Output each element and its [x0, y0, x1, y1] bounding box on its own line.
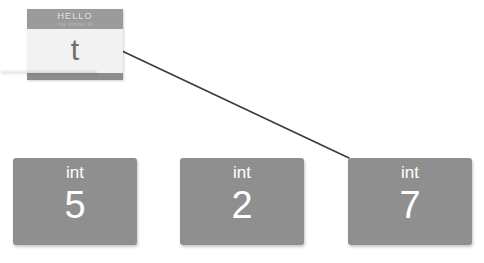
int-box-type-label: int: [401, 163, 419, 182]
name-tag-variable-name: t: [71, 35, 79, 65]
name-tag-hello-text: HELLO: [57, 11, 92, 21]
int-box-value-label: 5: [64, 184, 85, 226]
name-tag-drop-shadow: [1, 71, 97, 74]
int-box-type-label: int: [66, 163, 84, 182]
int-box-value-label: 2: [231, 184, 252, 226]
name-tag-header: HELLO my name is: [27, 9, 123, 29]
name-tag-body: t: [27, 29, 123, 73]
int-box-value-label: 7: [399, 184, 420, 226]
reference-arrow-line: [122, 51, 349, 158]
name-tag-bottom-edge: [27, 73, 123, 80]
int-box-type-label: int: [233, 163, 251, 182]
int-box[interactable]: int 2: [180, 158, 304, 245]
name-tag-subtitle-text: my name is: [58, 21, 93, 28]
diagram-canvas: HELLO my name is t int 5 int 2 int 7: [0, 0, 484, 263]
int-box[interactable]: int 7: [348, 158, 472, 245]
name-tag-variable[interactable]: HELLO my name is t: [27, 9, 123, 80]
int-box[interactable]: int 5: [13, 158, 137, 245]
